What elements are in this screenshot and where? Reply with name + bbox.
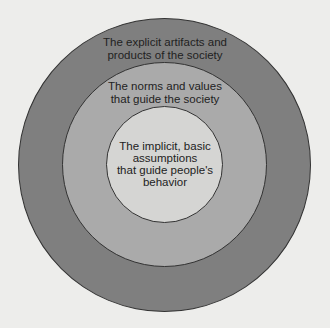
outer-layer-label: The explicit artifacts and products of t… (80, 36, 250, 61)
middle-layer-label: The norms and values that guide the soci… (80, 80, 250, 105)
inner-layer-label: The implicit, basic assumptions that gui… (110, 140, 220, 188)
